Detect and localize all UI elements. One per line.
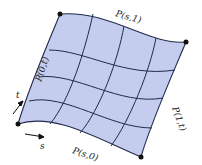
t-axis-label: t — [16, 90, 20, 100]
corner-point-10 — [139, 155, 144, 160]
s-axis-arrow — [25, 134, 44, 139]
surface-patch-diagram: t s P(s,1) P(0,t) P(1,t) P(s,0) — [0, 0, 202, 165]
corner-point-00 — [16, 122, 21, 127]
corner-point-01 — [58, 12, 63, 17]
patch-surface — [18, 14, 186, 157]
corner-point-11 — [184, 40, 189, 45]
s-axis-label: s — [40, 141, 45, 151]
edge-label-top: P(s,1) — [113, 8, 142, 25]
edge-label-right: P(1,t) — [170, 104, 189, 133]
edge-label-bottom: P(s,0) — [70, 145, 100, 163]
